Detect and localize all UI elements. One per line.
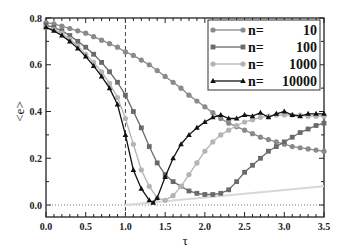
legend-value: 100 — [296, 40, 317, 55]
legend-label: n= — [248, 74, 264, 89]
chart-container: 0.00.51.01.52.02.53.03.50.00.20.40.60.8τ… — [0, 0, 346, 252]
y-tick-label: 0.2 — [30, 153, 43, 164]
x-tick-label: 1.5 — [159, 221, 172, 232]
legend-value: 10000 — [282, 74, 317, 89]
y-tick-label: 0.4 — [30, 106, 43, 117]
x-tick-label: 1.0 — [119, 221, 132, 232]
legend-label: n= — [248, 23, 264, 38]
x-tick-label: 0.5 — [79, 221, 92, 232]
line-chart: 0.00.51.01.52.02.53.03.50.00.20.40.60.8τ… — [0, 0, 346, 252]
y-tick-label: 0.6 — [30, 59, 43, 70]
legend-value: 10 — [303, 23, 317, 38]
legend-value: 1000 — [289, 57, 317, 72]
legend-label: n= — [248, 40, 264, 55]
y-tick-label: 0.8 — [30, 13, 43, 24]
y-axis-label: <e> — [12, 101, 27, 121]
x-tick-label: 3.5 — [318, 221, 331, 232]
y-tick-label: 0.0 — [30, 200, 43, 211]
legend: n=10n=100n=1000n=10000 — [208, 20, 320, 90]
x-tick-label: 3.0 — [278, 221, 291, 232]
legend-label: n= — [248, 57, 264, 72]
x-tick-label: 0.0 — [40, 221, 53, 232]
x-tick-label: 2.0 — [199, 221, 212, 232]
x-tick-label: 2.5 — [238, 221, 251, 232]
x-axis-label: τ — [182, 233, 187, 248]
